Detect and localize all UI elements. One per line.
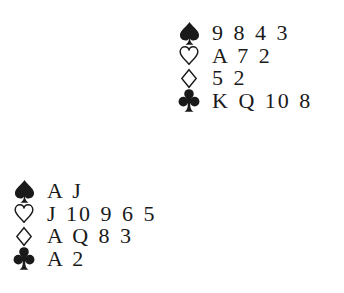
- north-clubs-cards: K Q 10 8: [212, 90, 312, 112]
- diamond-outline-icon: [11, 225, 37, 247]
- spade-icon: [11, 180, 37, 202]
- west-diamonds-row: A Q 8 3: [11, 225, 157, 248]
- heart-outline-icon: [176, 45, 202, 67]
- north-hearts-cards: A 7 2: [212, 45, 272, 67]
- north-spades-cards: 9 8 4 3: [212, 22, 290, 44]
- diamond-outline-icon: [176, 67, 202, 89]
- west-clubs-cards: A 2: [47, 248, 85, 270]
- heart-outline-icon: [11, 203, 37, 225]
- north-clubs-row: K Q 10 8: [176, 90, 312, 113]
- north-diamonds-row: 5 2: [176, 67, 312, 90]
- west-diamonds-cards: A Q 8 3: [47, 225, 133, 247]
- west-hearts-cards: J 10 9 6 5: [47, 203, 157, 225]
- west-hearts-row: J 10 9 6 5: [11, 203, 157, 226]
- west-spades-row: A J: [11, 180, 157, 203]
- west-spades-cards: A J: [47, 180, 83, 202]
- spade-icon: [176, 22, 202, 44]
- west-hand: A J J 10 9 6 5 A Q 8 3 A 2: [11, 180, 157, 270]
- north-hand: 9 8 4 3 A 7 2 5 2 K Q 10 8: [176, 22, 312, 112]
- north-hearts-row: A 7 2: [176, 45, 312, 68]
- club-icon: [176, 90, 202, 112]
- north-diamonds-cards: 5 2: [212, 67, 247, 89]
- club-icon: [11, 248, 37, 270]
- west-clubs-row: A 2: [11, 248, 157, 271]
- north-spades-row: 9 8 4 3: [176, 22, 312, 45]
